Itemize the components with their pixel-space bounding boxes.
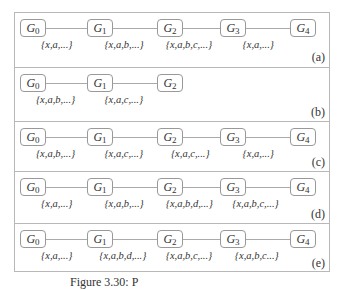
node-name: G (163, 130, 172, 144)
graph-node: G0 (20, 74, 46, 92)
node-name: G (296, 130, 305, 144)
graph-node: G0 (20, 128, 46, 146)
edge-label: {x,a,b,d,...} (99, 250, 146, 261)
graph-node: G1 (87, 19, 113, 37)
graph-node: G3 (220, 19, 246, 37)
node-subscript: 4 (305, 135, 310, 145)
node-subscript: 1 (102, 237, 107, 247)
node-subscript: 3 (235, 237, 240, 247)
graph-node: G2 (157, 74, 183, 92)
edge-line (46, 83, 87, 84)
node-subscript: 1 (102, 26, 107, 36)
node-subscript: 2 (172, 185, 177, 195)
node-subscript: 0 (35, 26, 40, 36)
node-subscript: 0 (35, 237, 40, 247)
panel-label: (c) (312, 155, 325, 170)
graph-node: G2 (157, 19, 183, 37)
edge-line (246, 137, 290, 138)
edge-label: {x,a,c,...} (171, 148, 210, 159)
edge-line (183, 137, 220, 138)
edge-line (113, 28, 157, 29)
graph-node: G4 (290, 230, 316, 248)
node-subscript: 3 (235, 135, 240, 145)
edge-line (246, 239, 290, 240)
node-name: G (296, 180, 305, 194)
edge-line (183, 187, 220, 188)
edge-line (113, 187, 157, 188)
graph-node: G1 (87, 178, 113, 196)
node-name: G (226, 130, 235, 144)
panel-a: {x,a,...}{x,a,b,...}{x,a,b,c,...}{x,a,..… (15, 13, 329, 67)
node-name: G (26, 130, 35, 144)
graph-node: G2 (157, 128, 183, 146)
edge-label: {x,a,b,c,...} (232, 198, 279, 209)
node-name: G (93, 232, 102, 246)
edge-label: {x,a,b,...} (36, 148, 75, 159)
panel-label: (d) (311, 207, 325, 222)
node-name: G (93, 76, 102, 90)
edge-label: {x,a,...} (243, 148, 274, 159)
edge-line (246, 28, 290, 29)
edge-line (246, 187, 290, 188)
graph-node: G2 (157, 230, 183, 248)
node-name: G (93, 130, 102, 144)
node-name: G (163, 180, 172, 194)
node-name: G (226, 180, 235, 194)
node-subscript: 2 (172, 237, 177, 247)
node-name: G (26, 21, 35, 35)
edge-label: {x,a,...} (243, 39, 274, 50)
graph-node: G3 (220, 230, 246, 248)
node-name: G (163, 21, 172, 35)
graph-node: G3 (220, 178, 246, 196)
graph-node: G1 (87, 128, 113, 146)
edge-line (46, 137, 87, 138)
panel-label: (e) (312, 256, 325, 271)
graph-node: G4 (290, 178, 316, 196)
node-name: G (26, 180, 35, 194)
edge-label: {x,a,b,...} (104, 39, 143, 50)
node-name: G (93, 180, 102, 194)
edge-label: {x,a,b,c...} (235, 250, 279, 261)
node-name: G (226, 21, 235, 35)
node-subscript: 2 (172, 81, 177, 91)
node-subscript: 1 (102, 81, 107, 91)
node-name: G (163, 76, 172, 90)
panel-b: {x,a,b,...}{x,a,c,...}G0G1G2(b) (15, 67, 329, 121)
graph-node: G0 (20, 19, 46, 37)
node-name: G (296, 232, 305, 246)
panel-label: (b) (311, 105, 325, 120)
node-subscript: 2 (172, 135, 177, 145)
graph-node: G1 (87, 74, 113, 92)
node-name: G (296, 21, 305, 35)
node-subscript: 0 (35, 185, 40, 195)
panel-d: {x,a,...}{x,a,b,...}{x,a,b,d,...}{x,a,b,… (15, 171, 329, 223)
edge-label: {x,a,c,...} (104, 148, 143, 159)
node-subscript: 1 (102, 185, 107, 195)
panel-label: (a) (312, 50, 325, 65)
graph-node: G3 (220, 128, 246, 146)
panel-c: {x,a,b,...}{x,a,c,...}{x,a,c,...}{x,a,..… (15, 121, 329, 171)
edge-line (46, 28, 87, 29)
node-subscript: 4 (305, 185, 310, 195)
node-subscript: 0 (35, 135, 40, 145)
edge-label: {x,a,...} (41, 250, 72, 261)
edge-label: {x,a,b,c,...} (166, 250, 213, 261)
edge-label: {x,a,b,...} (36, 94, 75, 105)
graph-node: G4 (290, 19, 316, 37)
edge-line (183, 28, 220, 29)
graph-node: G1 (87, 230, 113, 248)
edge-label: {x,a,c,...} (104, 94, 143, 105)
node-name: G (93, 21, 102, 35)
graph-node: G0 (20, 178, 46, 196)
node-name: G (26, 232, 35, 246)
graph-node: G4 (290, 128, 316, 146)
node-subscript: 4 (305, 237, 310, 247)
graph-node: G2 (157, 178, 183, 196)
edge-line (113, 83, 157, 84)
edge-label: {x,a,...} (41, 39, 72, 50)
edge-label: {x,a,...} (41, 198, 72, 209)
edge-label: {x,a,b,...} (104, 198, 143, 209)
node-subscript: 1 (102, 135, 107, 145)
edge-line (113, 137, 157, 138)
graph-node: G0 (20, 230, 46, 248)
